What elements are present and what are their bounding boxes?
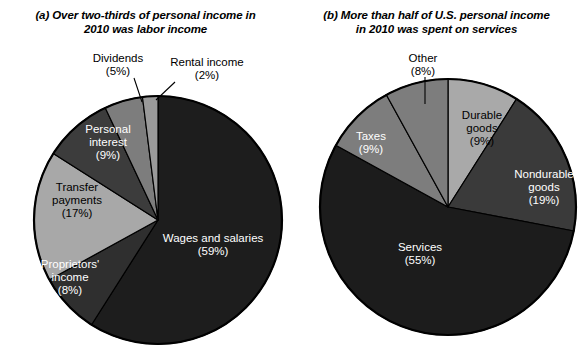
- slice-label-line: (19%): [529, 194, 560, 206]
- panel-b: (b) More than half of U.S. personal inco…: [291, 0, 582, 352]
- slice-label-line: (17%): [62, 207, 93, 219]
- slice-label-line: Nondurable: [514, 168, 573, 180]
- slice-label-line: (8%): [411, 65, 435, 77]
- slice-label-line: Services: [398, 241, 442, 253]
- pie-chart-b: Durablegoods(9%)Nondurablegoods(19%)Serv…: [291, 0, 582, 352]
- slice-label-line: (59%): [198, 245, 229, 257]
- slice-label-line: (9%): [470, 135, 494, 147]
- slice-label-line: income: [51, 271, 88, 283]
- slice-label-line: Wages and salaries: [163, 232, 264, 244]
- slice-label-line: payments: [52, 194, 102, 206]
- panel-a: (a) Over two-thirds of personal income i…: [0, 0, 291, 352]
- slice-label-line: (8%): [58, 284, 82, 296]
- slice-label: Rental income(2%): [170, 56, 244, 81]
- slice-label-line: goods: [466, 122, 498, 134]
- slice-label-line: Transfer: [56, 181, 99, 193]
- slice-label-line: (2%): [195, 69, 219, 81]
- pie-chart-figure: (a) Over two-thirds of personal income i…: [0, 0, 582, 352]
- slice-label-line: Taxes: [356, 130, 386, 142]
- slice-label-line: Dividends: [93, 52, 144, 64]
- slice-label-line: Durable: [462, 109, 502, 121]
- slice-label: Taxes(9%): [356, 130, 386, 155]
- slice-label: Dividends(5%): [93, 52, 144, 77]
- slice-label-line: goods: [528, 181, 560, 193]
- slice-label: Other(8%): [409, 52, 438, 77]
- slice-label-line: Proprietors': [41, 258, 99, 270]
- slice-label-line: Rental income: [170, 56, 244, 68]
- slice-label-line: (5%): [106, 65, 130, 77]
- slice-label-line: Personal: [85, 123, 130, 135]
- slice-label-line: (9%): [96, 149, 120, 161]
- slice-label-line: (55%): [405, 254, 436, 266]
- slice-label-line: interest: [89, 136, 128, 148]
- slice-label-line: (9%): [359, 143, 383, 155]
- pie-chart-a: Wages and salaries(59%)Proprietors'incom…: [0, 0, 291, 352]
- slice-label-line: Other: [409, 52, 438, 64]
